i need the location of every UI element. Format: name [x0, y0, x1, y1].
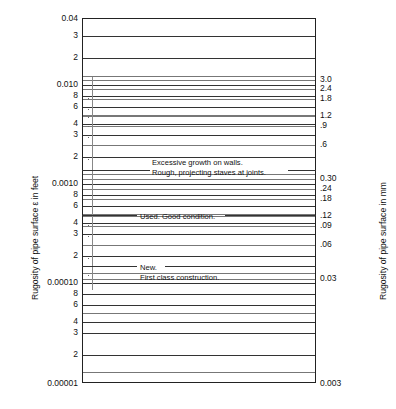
left-tick-label: 2 [73, 350, 78, 359]
gridline-left-21 [83, 294, 315, 295]
left-tick-label: 3 [73, 229, 78, 238]
minor-tick-dot [88, 137, 89, 138]
annotation-line-2: First class construction. [140, 273, 219, 283]
right-tick-label: 0.03 [320, 274, 337, 283]
gridline-left-13 [83, 195, 315, 196]
left-tick-label: 6 [73, 300, 78, 309]
gridline-left-4 [83, 85, 315, 86]
left-tick-label: 2 [73, 152, 78, 161]
right-tick-label: 1.2 [320, 111, 332, 120]
left-tick-label: 3 [73, 130, 78, 139]
gridline-left-3 [83, 76, 315, 77]
gridline-left-26 [83, 355, 315, 356]
gridline-left-5 [83, 96, 315, 97]
gridline-right-3 [83, 116, 315, 117]
minor-tick-dot [88, 126, 89, 127]
gridline-left-8 [83, 124, 315, 125]
right-tick-label: 2.4 [320, 84, 332, 93]
right-tick-label: 1.8 [320, 94, 332, 103]
annotation-line-1: Excessive growth on walls. [152, 158, 266, 168]
gridline-left-16 [83, 223, 315, 224]
annotation-leader-left [82, 266, 137, 267]
rugosity-scale-chart: Rugosity of pipe surface ε in feet Rugos… [0, 0, 396, 409]
left-tick-label: 6 [73, 102, 78, 111]
annotation-leader-left [82, 215, 137, 216]
minor-tick-dot [88, 225, 89, 226]
minor-tick-dot [88, 117, 89, 118]
right-tick-label: .06 [320, 240, 332, 249]
right-tick-label: 0.003 [320, 379, 341, 388]
gridline-right-6 [83, 179, 315, 180]
left-tick-label: 0.04 [61, 14, 78, 23]
right-tick-label: .18 [320, 194, 332, 203]
right-tick-label: .6 [320, 140, 327, 149]
left-tick-label: 3 [73, 328, 78, 337]
minor-tick-dot [88, 275, 89, 276]
annotation-leader-right [288, 170, 316, 171]
annotation-line-1: Used. Good condition. [140, 212, 215, 222]
gridline-left-22 [83, 305, 315, 306]
right-tick-label: 3.0 [320, 75, 332, 84]
left-tick-label: 0.00001 [47, 379, 78, 388]
left-tick-label: 8 [73, 289, 78, 298]
left-tick-label: 0.0010 [52, 179, 78, 188]
gridline-left-27 [83, 372, 315, 373]
annotation-leader-right [225, 215, 316, 216]
annotation-line-2: Rough, projecting staves at joints. [152, 168, 266, 178]
annotation-line-1: New. [140, 263, 219, 273]
annotation-leader-left [82, 170, 150, 171]
gridline-left-1 [83, 36, 315, 37]
gridline-left-2 [83, 58, 315, 59]
right-axis-title: Rugosity of pipe surface in mm [378, 182, 388, 300]
left-tick-label: 4 [73, 119, 78, 128]
minor-tick-dot [88, 236, 89, 237]
right-tick-label: 0.30 [320, 174, 337, 183]
gridline-left-14 [83, 206, 315, 207]
gridline-left-6 [83, 107, 315, 108]
gridline-right-2 [83, 99, 315, 100]
vertical-hairline [92, 77, 93, 290]
left-tick-label: 6 [73, 201, 78, 210]
gridline-left-20 [83, 283, 315, 284]
gridline-left-24 [83, 322, 315, 323]
left-tick-label: 2 [73, 251, 78, 260]
gridline-right-0 [83, 80, 315, 81]
left-tick-label: 4 [73, 317, 78, 326]
right-tick-label: .09 [320, 221, 332, 230]
left-tick-label: 8 [73, 91, 78, 100]
minor-tick-dot [88, 109, 89, 110]
gridline-right-4 [83, 126, 315, 127]
left-tick-label: 4 [73, 218, 78, 227]
gridline-right-8 [83, 199, 315, 200]
chart-annotation: Used. Good condition. [140, 212, 215, 222]
gridline-right-11 [83, 245, 315, 246]
gridline-left-12 [83, 184, 315, 185]
gridline-left-17 [83, 234, 315, 235]
right-tick-label: .24 [320, 184, 332, 193]
gridline-left-18 [83, 256, 315, 257]
left-tick-label: 0.00010 [47, 278, 78, 287]
right-tick-label: .9 [320, 121, 327, 130]
gridline-right-7 [83, 189, 315, 190]
gridline-right-5 [83, 145, 315, 146]
left-tick-label: 0.010 [57, 80, 78, 89]
minor-tick-dot [88, 258, 89, 259]
gridline-left-23 [83, 313, 315, 314]
gridline-left-25 [83, 333, 315, 334]
left-tick-label: 3 [73, 31, 78, 40]
left-tick-label: 8 [73, 190, 78, 199]
left-tick-label: 2 [73, 53, 78, 62]
chart-annotation: Excessive growth on walls.Rough, project… [152, 158, 266, 177]
right-tick-label: .12 [320, 211, 332, 220]
gridline-left-9 [83, 135, 315, 136]
minor-tick-dot [88, 159, 89, 160]
gridline-right-1 [83, 89, 315, 90]
annotation-leader-right [165, 266, 316, 267]
plot-area [82, 18, 316, 383]
minor-tick-dot [88, 98, 89, 99]
gridline-right-10 [83, 226, 315, 227]
left-axis-title: Rugosity of pipe surface ε in feet [30, 176, 40, 300]
